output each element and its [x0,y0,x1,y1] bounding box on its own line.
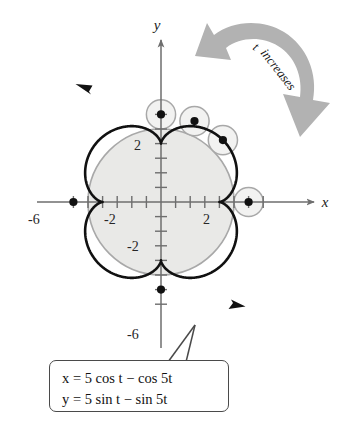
y-tick-label-neg6: -6 [127,327,139,342]
cusp-point-top [157,110,165,118]
equation-text-block: x = 5 cos t − cos 5t y = 5 sin t − sin 5… [60,365,230,411]
direction-arrowhead-upper-left [76,84,93,95]
equation-line-1: x = 5 cos t − cos 5t [62,370,172,386]
epicycloid-figure: t increases x y -6 -2 2 2 -2 -6 x = 5 co… [0,0,346,427]
x-tick-label-neg2: -2 [104,212,116,227]
rotation-arrow-band [195,23,330,137]
equation-line-2: y = 5 sin t − sin 5t [62,391,167,407]
equation-callout-leader [168,325,195,362]
trace-point-a [219,136,227,144]
direction-arrowhead-lower-right [229,300,246,310]
trace-point-b [190,117,198,125]
x-tick-label-pos2: 2 [203,212,210,227]
cusp-point-right [245,198,253,206]
t-increases-arrow: t increases [195,23,330,137]
y-axis-label: y [152,17,161,33]
cusp-point-bottom [157,286,165,294]
y-tick-label-neg2: -2 [127,239,139,254]
x-axis-label: x [321,194,329,210]
cusp-point-left [69,198,77,206]
y-tick-label-pos2: 2 [134,138,141,153]
x-tick-label-neg6: -6 [28,212,40,227]
equation-callout-box: x = 5 cos t − cos 5t y = 5 sin t − sin 5… [49,360,229,412]
